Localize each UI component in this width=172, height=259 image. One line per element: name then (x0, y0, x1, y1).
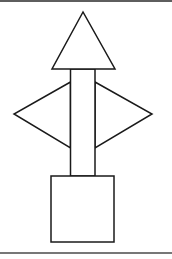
top-triangle (52, 12, 115, 69)
right-triangle (95, 82, 152, 148)
left-triangle (14, 82, 71, 148)
arrow-figure (0, 0, 172, 259)
diagram-canvas (0, 0, 172, 259)
vertical-shaft (71, 69, 96, 176)
base-square (51, 176, 114, 242)
bottom-border-rule (0, 252, 172, 254)
